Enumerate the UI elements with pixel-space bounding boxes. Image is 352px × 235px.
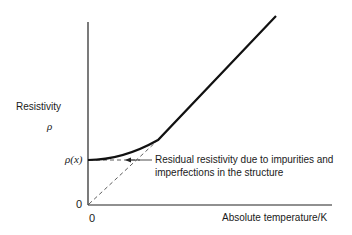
resistivity-diagram [0, 0, 352, 235]
x-axis-label: Absolute temperature/K [222, 212, 327, 223]
y-zero-tick: 0 [76, 198, 82, 210]
arrow-head-icon [125, 158, 131, 163]
resistivity-curve [88, 16, 276, 160]
extrapolation-line [89, 140, 158, 204]
y-axis-label: Resistivity [16, 101, 61, 112]
x-zero-tick: 0 [89, 212, 95, 224]
rho-symbol: ρ [47, 120, 52, 132]
annotation-line2: imperfections in the structure [155, 167, 283, 178]
annotation-line1: Residual resistivity due to impurities a… [155, 154, 333, 165]
rho-x-tick: ρ(x) [65, 153, 83, 165]
